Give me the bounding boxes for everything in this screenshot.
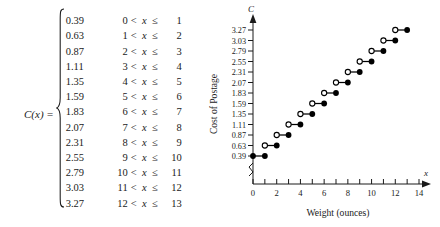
figure-root: C(x) = 0.390<x≤10.631<x≤20.872<x≤31.113<… bbox=[0, 0, 440, 227]
case-lower-bound: 12 bbox=[112, 198, 128, 209]
closed-endpoint-marker bbox=[250, 153, 256, 159]
case-condition: 2<x≤3 bbox=[112, 46, 182, 57]
chart-axes bbox=[249, 14, 431, 187]
case-variable: x bbox=[140, 167, 149, 178]
case-variable: x bbox=[140, 61, 149, 72]
closed-endpoint-marker bbox=[392, 38, 398, 44]
case-variable: x bbox=[140, 30, 149, 41]
case-variable: x bbox=[140, 91, 149, 102]
case-row: 1.113<x≤4 bbox=[66, 61, 182, 76]
case-value: 3.03 bbox=[66, 182, 96, 193]
case-relation-le: ≤ bbox=[149, 167, 162, 178]
open-endpoint-marker bbox=[333, 80, 338, 85]
case-variable: x bbox=[140, 198, 149, 209]
x-tick-label: 4 bbox=[298, 188, 303, 198]
case-relation-lt: < bbox=[128, 30, 140, 41]
chart-svg: 0.390.630.871.111.351.591.832.072.312.55… bbox=[205, 4, 437, 224]
case-lower-bound: 5 bbox=[112, 91, 128, 102]
case-relation-le: ≤ bbox=[149, 152, 162, 163]
case-variable: x bbox=[140, 106, 149, 117]
case-row: 1.836<x≤7 bbox=[66, 106, 182, 121]
case-relation-le: ≤ bbox=[149, 76, 162, 87]
case-row: 1.354<x≤5 bbox=[66, 76, 182, 91]
case-relation-lt: < bbox=[128, 106, 140, 117]
y-tick-label: 1.11 bbox=[232, 121, 246, 130]
data-segments bbox=[250, 27, 410, 159]
case-upper-bound: 9 bbox=[162, 137, 182, 148]
x-axis-title: Weight (ounces) bbox=[307, 207, 370, 219]
case-variable: x bbox=[140, 122, 149, 133]
open-endpoint-marker bbox=[322, 90, 327, 95]
case-row: 2.559<x≤10 bbox=[66, 152, 182, 167]
case-relation-le: ≤ bbox=[149, 198, 162, 209]
open-endpoint-marker bbox=[357, 59, 362, 64]
case-lower-bound: 6 bbox=[112, 106, 128, 117]
case-value: 0.63 bbox=[66, 30, 96, 41]
case-value: 1.59 bbox=[66, 91, 96, 102]
case-relation-le: ≤ bbox=[149, 91, 162, 102]
case-condition: 3<x≤4 bbox=[112, 61, 182, 72]
case-upper-bound: 13 bbox=[162, 198, 182, 209]
case-lower-bound: 1 bbox=[112, 30, 128, 41]
x-axis-variable-label: x bbox=[423, 168, 428, 178]
case-row: 0.872<x≤3 bbox=[66, 46, 182, 61]
y-tick-label: 3.27 bbox=[232, 26, 246, 35]
open-endpoint-marker bbox=[393, 27, 398, 32]
closed-endpoint-marker bbox=[333, 90, 339, 96]
case-relation-le: ≤ bbox=[149, 106, 162, 117]
open-endpoint-marker bbox=[369, 48, 374, 53]
cases-list: 0.390<x≤10.631<x≤20.872<x≤31.113<x≤41.35… bbox=[66, 15, 182, 212]
case-lower-bound: 4 bbox=[112, 76, 128, 87]
y-tick-label: 1.35 bbox=[232, 110, 246, 119]
case-relation-le: ≤ bbox=[149, 137, 162, 148]
case-variable: x bbox=[140, 152, 149, 163]
case-relation-lt: < bbox=[128, 46, 140, 57]
y-tick-label: 2.79 bbox=[232, 47, 246, 56]
case-row: 0.631<x≤2 bbox=[66, 30, 182, 45]
y-axis-break-icon bbox=[249, 163, 253, 176]
open-endpoint-marker bbox=[262, 143, 267, 148]
case-relation-le: ≤ bbox=[149, 46, 162, 57]
case-value: 2.31 bbox=[66, 137, 96, 148]
closed-endpoint-marker bbox=[298, 122, 304, 128]
closed-endpoint-marker bbox=[262, 153, 268, 159]
open-endpoint-marker bbox=[345, 69, 350, 74]
case-lower-bound: 7 bbox=[112, 122, 128, 133]
case-relation-le: ≤ bbox=[149, 30, 162, 41]
case-condition: 10<x≤11 bbox=[112, 167, 182, 178]
case-lower-bound: 9 bbox=[112, 152, 128, 163]
case-relation-lt: < bbox=[128, 15, 140, 26]
y-tick-label: 1.59 bbox=[232, 100, 246, 109]
case-relation-le: ≤ bbox=[149, 61, 162, 72]
case-lower-bound: 10 bbox=[112, 167, 128, 178]
case-condition: 4<x≤5 bbox=[112, 76, 182, 87]
open-endpoint-marker bbox=[286, 122, 291, 127]
case-upper-bound: 1 bbox=[162, 15, 182, 26]
case-row: 2.7910<x≤11 bbox=[66, 167, 182, 182]
case-condition: 7<x≤8 bbox=[112, 122, 182, 133]
case-upper-bound: 6 bbox=[162, 91, 182, 102]
case-condition: 0<x≤1 bbox=[112, 15, 182, 26]
closed-endpoint-marker bbox=[274, 143, 280, 149]
open-endpoint-marker bbox=[274, 132, 279, 137]
case-upper-bound: 7 bbox=[162, 106, 182, 117]
case-relation-lt: < bbox=[128, 122, 140, 133]
case-upper-bound: 4 bbox=[162, 61, 182, 72]
case-relation-lt: < bbox=[128, 61, 140, 72]
function-label: C(x) = bbox=[24, 108, 56, 120]
case-variable: x bbox=[140, 76, 149, 87]
case-upper-bound: 2 bbox=[162, 30, 182, 41]
case-value: 0.39 bbox=[66, 15, 96, 26]
case-condition: 12<x≤13 bbox=[112, 198, 182, 209]
x-tick-label: 2 bbox=[275, 188, 279, 198]
x-tick-label: 6 bbox=[322, 188, 327, 198]
closed-endpoint-marker bbox=[357, 69, 363, 75]
open-endpoint-marker bbox=[381, 38, 386, 43]
case-value: 1.11 bbox=[66, 61, 96, 72]
closed-endpoint-marker bbox=[404, 27, 410, 33]
case-upper-bound: 3 bbox=[162, 46, 182, 57]
x-axis-arrowhead bbox=[422, 181, 431, 188]
case-lower-bound: 8 bbox=[112, 137, 128, 148]
x-tick-label: 8 bbox=[346, 188, 350, 198]
piecewise-function-definition: C(x) = 0.390<x≤10.631<x≤20.872<x≤31.113<… bbox=[24, 8, 182, 220]
